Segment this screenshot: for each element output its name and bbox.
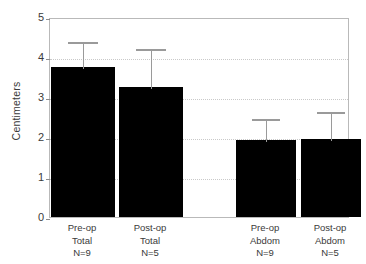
x-tick-label-line: Total (110, 235, 190, 248)
error-bar-stem (83, 42, 84, 69)
bar[interactable] (119, 87, 183, 217)
x-tick-label-line: Post-op (290, 222, 366, 235)
x-tick-label-line: N=5 (290, 247, 366, 260)
error-bar-stem (151, 49, 152, 89)
y-tick-mark (46, 19, 50, 20)
y-tick-label: 2 (4, 132, 44, 143)
error-bar-stem (266, 119, 267, 142)
error-bar-cap (136, 49, 166, 51)
y-tick-label: 5 (4, 12, 44, 23)
error-bar-cap (252, 119, 280, 121)
error-bar-cap (317, 112, 345, 114)
bar[interactable] (236, 140, 296, 217)
x-tick-label-line: N=5 (110, 247, 190, 260)
x-tick-label: Post-opAbdomN=5 (290, 222, 366, 260)
gridline (50, 59, 348, 60)
bar[interactable] (51, 67, 115, 217)
y-tick-label: 4 (4, 52, 44, 63)
y-tick-label: 0 (4, 212, 44, 223)
y-tick-mark (46, 219, 50, 220)
x-tick-label: Post-opTotalN=5 (110, 222, 190, 260)
x-tick-label-line: Post-op (110, 222, 190, 235)
error-bar-stem (331, 112, 332, 141)
bar-chart: Centimeters 012345 Pre-opTotalN=9Post-op… (0, 0, 366, 264)
y-axis-tick-labels: 012345 (0, 0, 44, 264)
error-bar-cap (68, 42, 98, 44)
x-tick-label-line: Abdom (290, 235, 366, 248)
y-tick-label: 3 (4, 92, 44, 103)
plot-area (49, 18, 349, 218)
y-tick-label: 1 (4, 172, 44, 183)
bar[interactable] (301, 139, 361, 217)
